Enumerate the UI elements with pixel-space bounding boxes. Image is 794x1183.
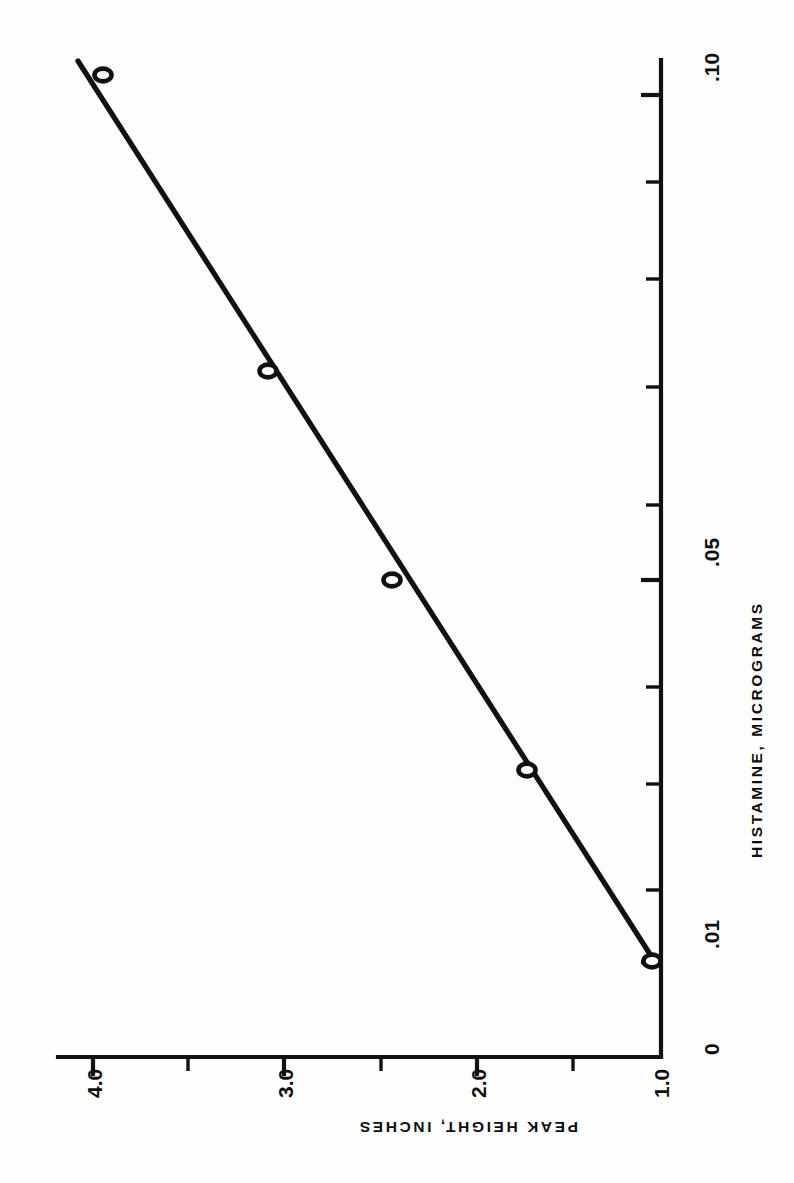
data-point-4: [519, 764, 536, 777]
data-point-2: [260, 365, 277, 378]
data-point-1: [95, 69, 112, 82]
tick-label-peak-4-0: 4.0: [83, 1069, 107, 1098]
page-canvas: .10 .05 .01 0 4.0 3.0 2.0 1.0 PEAK HEIGH…: [0, 0, 794, 1183]
axis-lines: [58, 60, 661, 1057]
histamine-major-ticks: [641, 95, 661, 962]
data-point-5: [644, 955, 661, 968]
histamine-axis-title: HISTAMINE, MICROGRAMS: [748, 601, 766, 858]
data-points: [95, 69, 661, 968]
plot-svg: [0, 0, 794, 1183]
tick-label-peak-2-0: 2.0: [467, 1069, 491, 1098]
fit-line-segment: [78, 61, 655, 962]
tick-label-peak-3-0: 3.0: [274, 1069, 298, 1098]
tick-label-peak-1-0: 1.0: [650, 1069, 674, 1098]
tick-label-histamine-0-10: .10: [700, 53, 724, 82]
tick-label-histamine-0-05: .05: [700, 538, 724, 567]
tick-label-histamine-zero: 0: [700, 1043, 724, 1055]
data-point-3: [384, 574, 401, 587]
chart-figure: .10 .05 .01 0 4.0 3.0 2.0 1.0 PEAK HEIGH…: [0, 0, 794, 1183]
peak-height-axis-title: PEAK HEIGHT, INCHES: [357, 1118, 578, 1136]
tick-label-histamine-0-01: .01: [700, 920, 724, 949]
histamine-minor-ticks: [646, 182, 661, 890]
fit-line: [78, 61, 655, 962]
